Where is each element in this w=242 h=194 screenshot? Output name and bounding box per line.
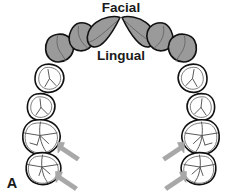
tooth-first-molar-right [182,120,219,155]
arrow-first-molar-left [58,142,80,161]
dental-arch-figure: Facial Lingual A [0,0,242,194]
label-lingual: Lingual [97,48,145,63]
arrow-second-molar-right [165,172,187,191]
tooth-central-incisor-left [87,17,120,47]
tooth-canine-right [168,34,196,62]
label-panel-a: A [7,175,18,191]
arrow-first-molar-right [163,142,185,161]
label-facial: Facial [102,0,140,15]
arrow-second-molar-left [56,172,78,191]
dental-arch-diagram: Facial Lingual A [0,0,242,194]
tooth-second-premolar-left [27,94,55,121]
tooth-second-premolar-right [187,94,215,121]
tooth-first-premolar-left [35,64,64,92]
tooth-first-molar-left [23,120,60,155]
tooth-first-premolar-right [178,64,207,92]
